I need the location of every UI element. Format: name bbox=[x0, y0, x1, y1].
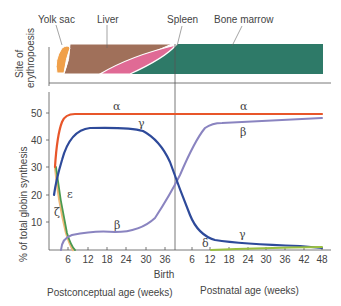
birth-label: Birth bbox=[154, 269, 175, 280]
yolk-sac-label: Yolk sac bbox=[38, 14, 75, 25]
xtick-post-36: 36 bbox=[279, 254, 291, 265]
xtick-post-18: 18 bbox=[223, 254, 235, 265]
y-axis-label: % of total globin synthesis bbox=[18, 146, 29, 262]
xtick-post-24: 24 bbox=[242, 254, 254, 265]
xtick-pre-18: 18 bbox=[101, 254, 113, 265]
label-gamma-pre: γ bbox=[138, 117, 145, 130]
axes: 50 40 30 20 10 6 12 18 24 30 36 6 12 18 … bbox=[18, 44, 331, 298]
label-alpha-post: α bbox=[240, 100, 248, 113]
xtick-pre-24: 24 bbox=[120, 254, 132, 265]
xtick-post-42: 42 bbox=[298, 254, 310, 265]
series bbox=[54, 114, 322, 250]
xtick-post-48: 48 bbox=[316, 254, 328, 265]
ytick-50: 50 bbox=[31, 108, 43, 119]
xtick-pre-36: 36 bbox=[159, 254, 171, 265]
bone-marrow-label: Bone marrow bbox=[214, 14, 274, 25]
xtick-post-6: 6 bbox=[189, 254, 195, 265]
label-epsilon: ε bbox=[67, 188, 73, 201]
xtick-post-12: 12 bbox=[204, 254, 216, 265]
label-beta-pre: β bbox=[114, 219, 120, 232]
series-beta bbox=[61, 118, 322, 250]
liver-label: Liver bbox=[97, 14, 119, 25]
xtick-post-30: 30 bbox=[260, 254, 272, 265]
spleen-label: Spleen bbox=[167, 14, 198, 25]
xtick-pre-30: 30 bbox=[140, 254, 152, 265]
label-zeta: ζ bbox=[54, 206, 60, 219]
x-axis-label-postnatal: Postnatal age (weeks) bbox=[200, 285, 299, 296]
ytick-20: 20 bbox=[31, 190, 43, 201]
ytick-30: 30 bbox=[31, 162, 43, 173]
ytick-10: 10 bbox=[31, 217, 43, 228]
label-gamma-post: γ bbox=[239, 228, 246, 241]
site-ylabel-1: Site of bbox=[14, 49, 25, 78]
xtick-pre-6: 6 bbox=[65, 254, 71, 265]
label-alpha-pre: α bbox=[113, 100, 121, 113]
globin-chart: Yolk sac Liver Spleen Bone marrow Site o… bbox=[0, 0, 341, 306]
site-ylabel-2: erythropoesis bbox=[25, 28, 36, 88]
label-beta-post: β bbox=[240, 126, 246, 139]
ytick-40: 40 bbox=[31, 135, 43, 146]
series-alpha bbox=[55, 114, 322, 167]
erythropoiesis-panel: Yolk sac Liver Spleen Bone marrow Site o… bbox=[14, 14, 331, 88]
series-gamma bbox=[54, 128, 322, 248]
label-delta: δ bbox=[202, 237, 209, 250]
xtick-pre-12: 12 bbox=[82, 254, 94, 265]
x-axis-label-prenatal: Postconceptual age (weeks) bbox=[47, 287, 173, 298]
series-delta bbox=[211, 247, 322, 250]
